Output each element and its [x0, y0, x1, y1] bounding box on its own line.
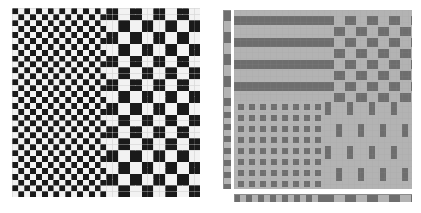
texture-quadrant-figure	[210, 0, 421, 213]
checkerboard-canvas	[12, 8, 200, 197]
figure-pair-root	[0, 0, 421, 213]
horizontal-ruler	[234, 194, 412, 202]
vertical-ruler	[223, 10, 231, 189]
checkerboard-figure	[0, 0, 210, 213]
texture-main-canvas	[234, 10, 412, 189]
